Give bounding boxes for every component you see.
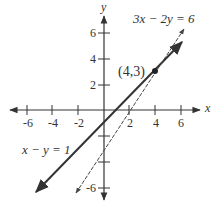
x-tick-label: -4 [48,116,58,130]
equation-label-2: 3x − 2y = 6 [132,11,195,26]
intersection-point [152,68,158,74]
x-tick-label: -2 [74,116,84,130]
intersection-label: (4,3) [118,64,145,80]
x-tick-label: 6 [178,116,184,130]
x-tick-label: -6 [23,116,33,130]
x-axis-label: x [204,101,211,115]
y-tick-label: -6 [86,181,96,195]
y-tick-label: 4 [90,52,96,66]
y-tick-label: 2 [90,78,96,92]
x-tick-label: 2 [127,116,133,130]
equation-label-1: x − y = 1 [21,142,71,157]
y-tick-label: 6 [90,26,96,40]
y-axis-label: y [100,0,107,14]
x-tick-label: 4 [153,116,159,130]
coordinate-plane: -6 -4 -2 2 4 6 6 4 2 -6 y x (4,3) x − y … [0,0,214,208]
